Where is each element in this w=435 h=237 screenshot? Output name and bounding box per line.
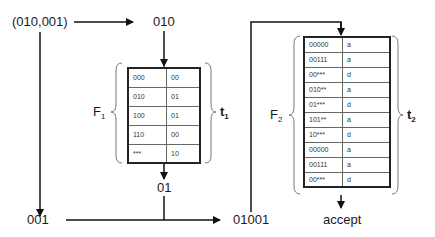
f2-brace-label: t2 <box>407 108 416 127</box>
f1-key-cell: 100 <box>128 106 167 125</box>
f1-output-label: 01 <box>157 181 171 195</box>
f2-key-cell: 00000 <box>304 142 343 157</box>
f1-value-cell: 00 <box>167 125 201 144</box>
f1-value-cell: 01 <box>167 106 201 125</box>
f2-right-brace <box>392 36 403 194</box>
table-row: 00111a <box>304 52 390 67</box>
table-row: 01001 <box>128 87 200 106</box>
table-row: 11000 <box>128 125 200 144</box>
result-label: accept <box>323 213 361 227</box>
f1-value-cell: 01 <box>167 87 201 106</box>
f1-value-cell: 00 <box>167 68 201 87</box>
f2-value-cell: d <box>343 67 391 82</box>
f2-left-brace <box>289 36 300 194</box>
f1-table: 00000 01001 10001 11000 ***10 <box>127 67 201 164</box>
f1-key-cell: 110 <box>128 125 167 144</box>
table-row: 10001 <box>128 106 200 125</box>
table-row: 101**a <box>304 112 390 127</box>
table-row: 01***d <box>304 97 390 112</box>
f2-value-cell: a <box>343 82 391 97</box>
f2-key-cell: 010** <box>304 82 343 97</box>
table-row: 010**a <box>304 82 390 97</box>
f2-value-cell: d <box>343 127 391 142</box>
f2-table: 00000a 00111a 00***d 010**a 01***d 101**… <box>303 36 391 188</box>
f1-value-cell: 10 <box>167 144 201 163</box>
input-pair-label: (010,001) <box>12 15 68 29</box>
f2-value-cell: a <box>343 52 391 67</box>
f2-value-cell: a <box>343 142 391 157</box>
f2-key-cell: 00000 <box>304 37 343 52</box>
f1-right-brace <box>205 63 216 163</box>
second-component-label: 001 <box>27 213 49 227</box>
f1-brace-label: t1 <box>220 105 229 124</box>
concat-label: 01001 <box>233 213 269 227</box>
f1-key-cell: 000 <box>128 68 167 87</box>
f2-key-cell: 00*** <box>304 67 343 82</box>
f2-value-cell: d <box>343 172 391 187</box>
f1-key-cell: 010 <box>128 87 167 106</box>
table-row: ***10 <box>128 144 200 163</box>
f2-key-cell: 101** <box>304 112 343 127</box>
table-row: 00***d <box>304 172 390 187</box>
first-component-label: 010 <box>153 15 175 29</box>
f2-key-cell: 00111 <box>304 52 343 67</box>
f2-value-cell: d <box>343 97 391 112</box>
f2-value-cell: a <box>343 37 391 52</box>
f2-key-cell: 10*** <box>304 127 343 142</box>
table-row: 00000a <box>304 37 390 52</box>
f2-value-cell: a <box>343 157 391 172</box>
f1-name: F1 <box>93 105 105 124</box>
table-row: 00000 <box>128 68 200 87</box>
table-row: 00111a <box>304 157 390 172</box>
table-row: 10***d <box>304 127 390 142</box>
f2-key-cell: 00111 <box>304 157 343 172</box>
f1-left-brace <box>111 63 122 163</box>
table-row: 00000a <box>304 142 390 157</box>
f2-key-cell: 00*** <box>304 172 343 187</box>
table-row: 00***d <box>304 67 390 82</box>
f2-key-cell: 01*** <box>304 97 343 112</box>
f2-value-cell: a <box>343 112 391 127</box>
f2-name: F2 <box>270 108 282 127</box>
f1-key-cell: *** <box>128 144 167 163</box>
